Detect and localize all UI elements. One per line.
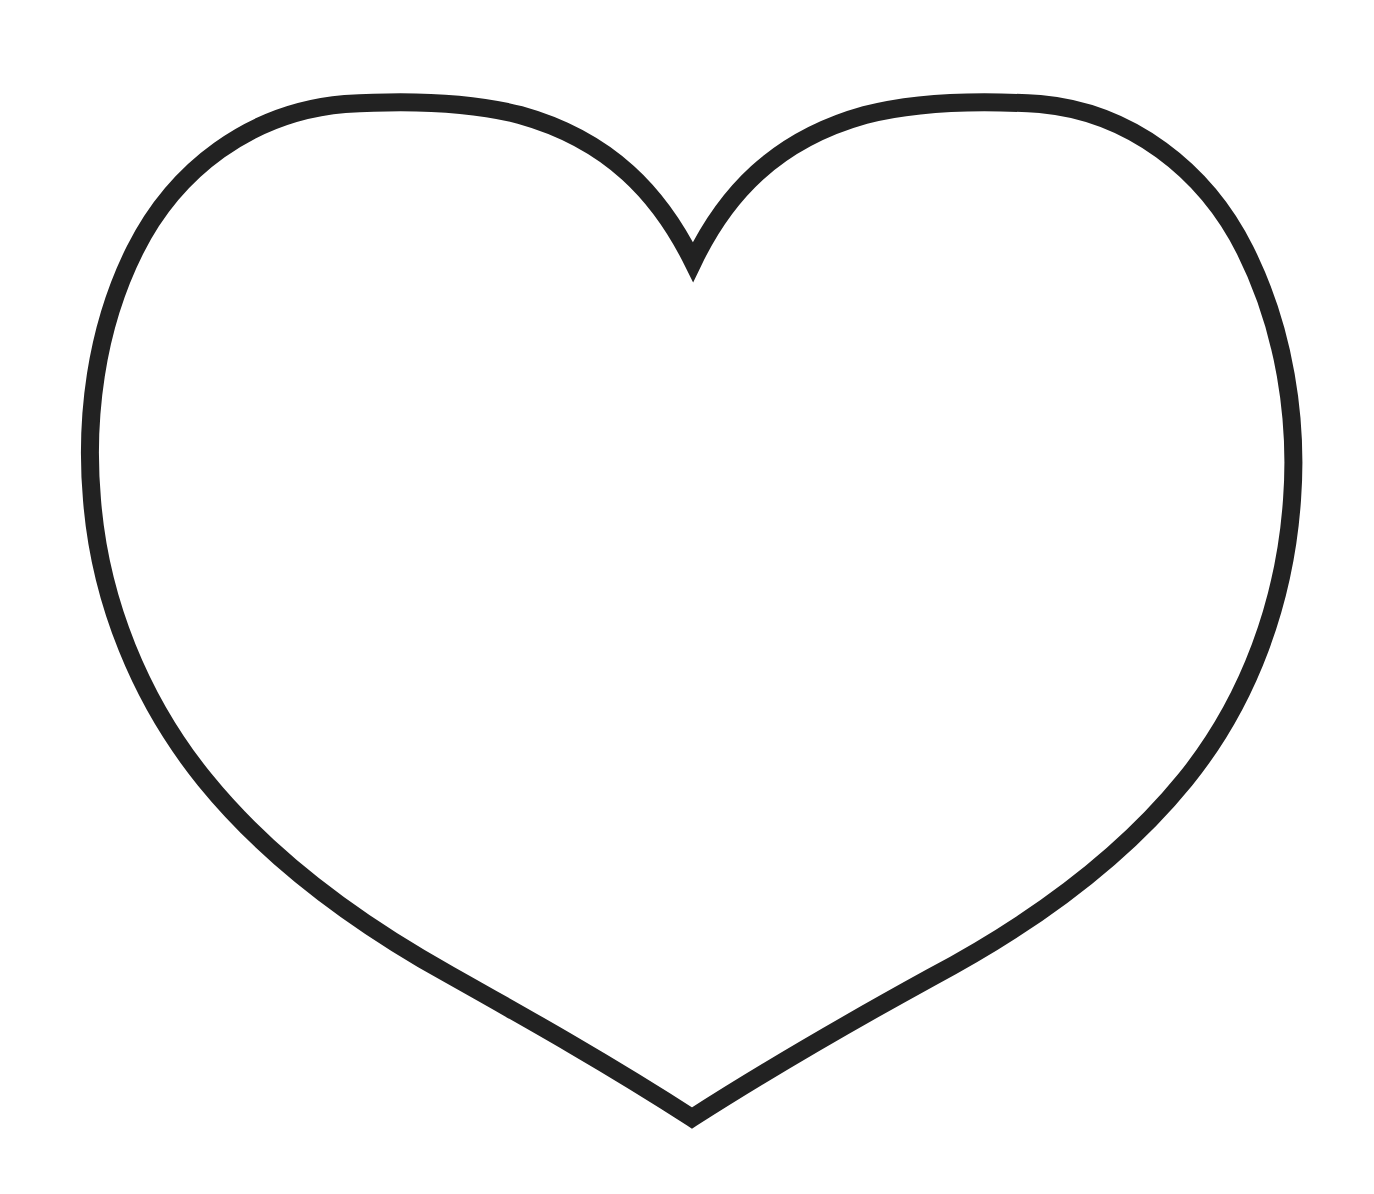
heart-canvas xyxy=(0,0,1374,1194)
heart-icon xyxy=(0,0,1374,1194)
